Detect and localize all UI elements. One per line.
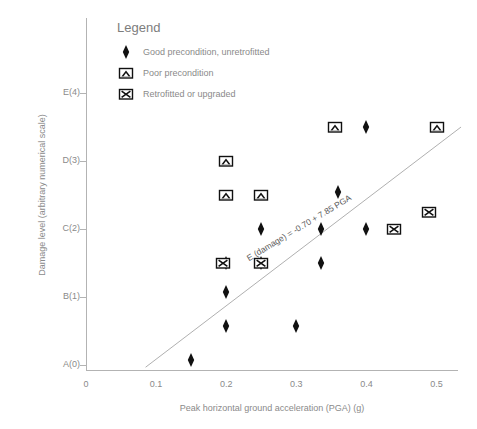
filled-diamond-icon bbox=[117, 44, 135, 60]
legend: Legend Good precondition, unretrofittedP… bbox=[117, 20, 347, 107]
legend-item-label: Good precondition, unretrofitted bbox=[143, 47, 270, 57]
legend-item: Poor precondition bbox=[117, 65, 347, 81]
chart-figure: A(0)B(1)C(2)D(3)E(4) 00.10.20.30.40.5 Pe… bbox=[0, 0, 477, 429]
legend-title: Legend bbox=[117, 20, 347, 35]
square-chevron-icon bbox=[117, 65, 135, 81]
legend-item-label: Retrofitted or upgraded bbox=[143, 89, 236, 99]
square-x-icon bbox=[117, 86, 135, 102]
legend-item: Good precondition, unretrofitted bbox=[117, 44, 347, 60]
legend-item-label: Poor precondition bbox=[143, 68, 214, 78]
legend-item: Retrofitted or upgraded bbox=[117, 86, 347, 102]
legend-entries: Good precondition, unretrofittedPoor pre… bbox=[117, 44, 347, 102]
